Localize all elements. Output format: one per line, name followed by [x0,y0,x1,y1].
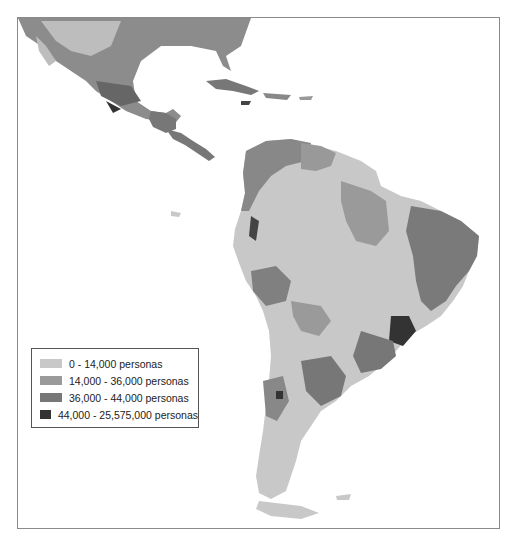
choropleth-map [18,18,500,529]
mexico-usa-region [18,18,251,161]
legend-label: 44,000 - 25,575,000 personas [58,409,198,421]
legend-label: 14,000 - 36,000 personas [69,375,189,387]
legend-item: 14,000 - 36,000 personas [40,372,198,389]
falkland-islands [336,494,351,500]
legend-item: 0 - 14,000 personas [40,355,198,372]
legend-swatch [40,410,51,419]
legend-swatch [40,376,62,385]
galapagos-islands [171,211,181,217]
legend-item: 36,000 - 44,000 personas [40,389,198,406]
legend-label: 36,000 - 44,000 personas [69,392,189,404]
map-frame [17,17,500,529]
legend-swatch [40,393,62,402]
legend-swatch [40,359,62,368]
south-america [233,139,479,519]
legend-label: 0 - 14,000 personas [69,358,162,370]
map-legend: 0 - 14,000 personas 14,000 - 36,000 pers… [31,348,199,428]
caribbean-islands [206,79,313,105]
legend-item: 44,000 - 25,575,000 personas [40,406,198,423]
